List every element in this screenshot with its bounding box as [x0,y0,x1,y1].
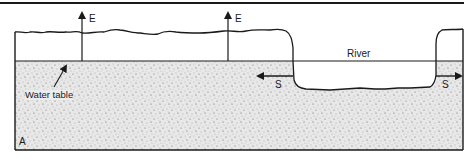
ground-surface-left [15,29,293,61]
evaporation-label-left: E [89,14,96,24]
evaporation-label-right: E [235,14,242,24]
river-water-table-diagram [0,0,474,164]
water-table-label: Water table [25,90,73,100]
seepage-label-right: S [442,80,449,90]
river-label: River [347,49,370,59]
saturated-soil [15,61,463,150]
seepage-label-left: S [275,80,282,90]
river-bed [293,61,436,90]
ground-surface-right [436,29,463,61]
panel-label: A [19,137,26,147]
